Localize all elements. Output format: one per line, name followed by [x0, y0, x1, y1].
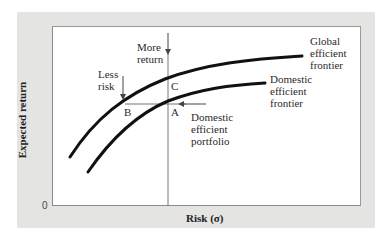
less-risk-line-2: risk: [98, 80, 118, 92]
domestic-frontier-curve: [88, 83, 265, 172]
global-line-3: frontier: [310, 59, 346, 71]
point-c-label: C: [171, 80, 178, 92]
global-line-1: Global: [310, 35, 346, 47]
domestic-line-3: frontier: [270, 97, 312, 109]
domestic-frontier-label: Domestic efficient frontier: [270, 73, 312, 109]
more-return-arrowhead-icon: [165, 49, 171, 55]
point-a-label: A: [171, 106, 179, 118]
global-line-2: efficient: [310, 47, 346, 59]
point-b-label: B: [124, 106, 131, 118]
dep-line-3: portfolio: [191, 135, 233, 147]
less-risk-line-1: Less: [98, 68, 118, 80]
domestic-line-1: Domestic: [270, 73, 312, 85]
dep-line-2: efficient: [191, 123, 233, 135]
origin-label: 0: [42, 200, 48, 211]
more-return-line-2: return: [137, 53, 163, 65]
dep-line-1: Domestic: [191, 111, 233, 123]
more-return-label: More return: [137, 41, 163, 65]
domestic-efficient-portfolio-label: Domestic efficient portfolio: [191, 111, 233, 147]
x-axis-label: Risk (σ): [186, 212, 223, 224]
more-return-line-1: More: [137, 41, 163, 53]
y-axis-label: Expected return: [16, 82, 28, 158]
less-risk-label: Less risk: [98, 68, 118, 92]
domestic-line-2: efficient: [270, 85, 312, 97]
global-frontier-label: Global efficient frontier: [310, 35, 346, 71]
